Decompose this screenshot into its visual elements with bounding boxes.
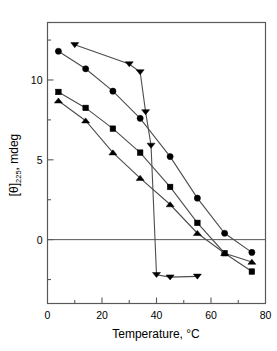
- data-point-circle: [137, 115, 143, 121]
- cd-melting-curve-figure: 0204060800510Temperature, °C[θ]225, mdeg: [0, 0, 277, 351]
- data-point-circle: [194, 195, 200, 201]
- series-line: [75, 45, 198, 277]
- x-tick-label: 40: [151, 310, 163, 321]
- data-point-circle: [222, 230, 228, 236]
- data-series-circle: [55, 48, 255, 255]
- data-point-circle: [249, 249, 255, 255]
- data-point-circle: [110, 88, 116, 94]
- data-point-square: [110, 126, 116, 132]
- data-point-triangle-up: [109, 150, 117, 155]
- x-tick-label: 80: [260, 310, 272, 321]
- y-tick-label: 5: [37, 155, 43, 166]
- data-point-triangle-up: [54, 98, 62, 103]
- data-point-square: [249, 269, 255, 275]
- data-point-square: [56, 89, 62, 95]
- x-tick-label: 20: [96, 310, 108, 321]
- y-axis-title-symbol: [θ]: [7, 183, 21, 196]
- data-point-square: [167, 184, 173, 190]
- y-axis-title-units: , mdeg: [7, 134, 21, 171]
- data-point-circle: [167, 154, 173, 160]
- data-point-triangle-down: [71, 43, 79, 48]
- x-tick-label: 60: [205, 310, 217, 321]
- plot-canvas: [0, 0, 277, 351]
- x-tick-label: 0: [45, 310, 51, 321]
- data-point-triangle-up: [193, 230, 201, 235]
- data-point-circle: [83, 66, 89, 72]
- data-point-square: [195, 220, 201, 226]
- y-axis-title: [θ]225, mdeg: [8, 134, 20, 197]
- y-tick-label: 0: [37, 234, 43, 245]
- data-point-triangle-down: [147, 143, 155, 148]
- y-axis-title-subscript: 225: [14, 170, 23, 183]
- data-point-triangle-down: [142, 110, 150, 115]
- series-line: [58, 51, 251, 252]
- data-point-square: [137, 150, 143, 156]
- y-tick-label: 10: [31, 75, 43, 86]
- data-series-triangle-down: [71, 43, 202, 280]
- data-point-circle: [55, 48, 61, 54]
- x-axis-title: Temperature, °C: [112, 328, 200, 340]
- data-point-triangle-up: [248, 259, 256, 264]
- data-point-triangle-down: [136, 70, 144, 75]
- data-point-square: [83, 105, 89, 111]
